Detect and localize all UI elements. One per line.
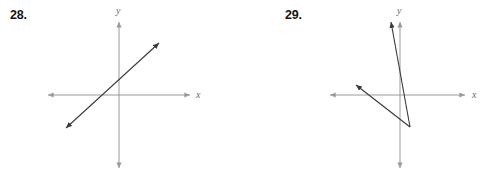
graph-28: x y — [0, 0, 244, 179]
x-axis-label: x — [195, 89, 201, 100]
worksheet-page: 28. x y 29 — [0, 0, 488, 179]
problem-28: 28. x y — [0, 0, 244, 179]
graphed-line-2 — [356, 85, 410, 127]
graphed-line-1 — [66, 43, 159, 128]
problem-29: 29. x y — [244, 0, 488, 179]
y-axis-label: y — [115, 5, 121, 16]
graph-29: x y — [244, 0, 488, 179]
x-axis-label: x — [471, 89, 477, 100]
y-axis-label: y — [396, 5, 402, 16]
